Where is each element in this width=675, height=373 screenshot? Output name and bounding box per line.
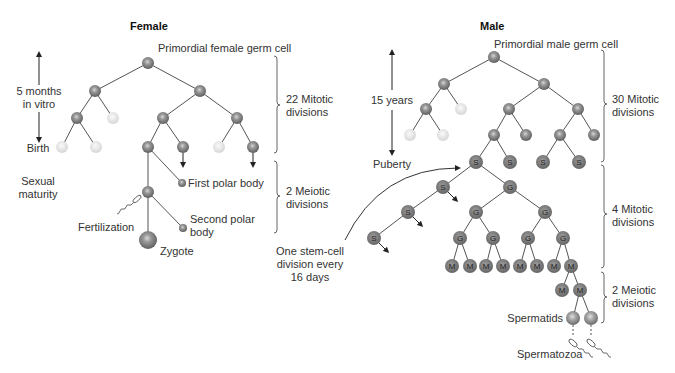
meiotic-label-2: divisions (612, 297, 655, 309)
stem-cell-note-2: division every (277, 258, 344, 270)
spermatids-label: Spermatids (507, 312, 563, 324)
sexual-maturity-label-2: maturity (18, 188, 58, 200)
svg-text:M: M (467, 262, 474, 271)
svg-text:S: S (576, 158, 581, 167)
svg-text:S: S (540, 158, 545, 167)
svg-text:S: S (507, 158, 512, 167)
svg-text:G: G (560, 234, 566, 243)
primordial-germ-cell (142, 57, 154, 69)
sexual-maturity-label: Sexual (21, 175, 55, 187)
spermatid (566, 311, 580, 325)
spermatogonium (438, 78, 450, 90)
male-lettered-nodes: S S S S S S S G G G G G G G M M M M M M … (367, 155, 587, 297)
male-timeline: 15 years Puberty (371, 52, 414, 170)
male-nodes (404, 51, 600, 325)
svg-text:S: S (440, 183, 445, 192)
male-section: Male Primordial male germ cell 15 years … (276, 20, 660, 360)
svg-text:G: G (490, 234, 496, 243)
meiotic-node: M (496, 259, 510, 273)
arrow-icon (379, 243, 387, 251)
brace-meiotic (601, 272, 607, 323)
brace-meiotic (274, 161, 280, 233)
gonial-node: G (521, 231, 535, 245)
spermatozoa-label: Spermatozoa (517, 348, 583, 360)
degenerated-cell (213, 141, 225, 153)
puberty-label: Puberty (373, 158, 411, 170)
svg-text:G: G (457, 234, 463, 243)
second-polar-body-label: Second polar (190, 213, 255, 225)
svg-text:M: M (568, 262, 575, 271)
spermatogonium (588, 129, 600, 141)
female-timeline: 5 months in vitro Birth Sexual maturity (16, 54, 62, 200)
meiotic-node: M (513, 259, 527, 273)
stem-cell-note: One stem-cell (276, 245, 344, 257)
meiotic-divisions-label: 2 Meiotic (286, 185, 331, 197)
mitotic-30-label: 30 Mitotic (612, 93, 660, 105)
oogonium (89, 85, 101, 97)
degenerated-cell (404, 129, 416, 141)
meiotic-node: M (463, 259, 477, 273)
oogonium (71, 112, 83, 124)
primary-oocyte (247, 141, 259, 153)
degenerated-cell (56, 141, 68, 153)
degenerated-cell (90, 141, 102, 153)
brace-4-mitotic (601, 165, 607, 268)
zygote (139, 231, 157, 249)
degenerated-cell (107, 112, 119, 124)
svg-text:M: M (534, 262, 541, 271)
second-polar-body (179, 224, 187, 232)
oogonium (194, 85, 206, 97)
brace-mitotic (274, 56, 280, 153)
spermatid (584, 311, 598, 325)
stem-cell-node: S (572, 155, 586, 169)
svg-text:G: G (525, 234, 531, 243)
second-polar-body-label-2: body (190, 226, 214, 238)
first-polar-body (178, 179, 186, 187)
svg-text:S: S (473, 158, 478, 167)
mitotic-divisions-label-2: divisions (286, 106, 329, 118)
timeline-label: 5 months (16, 85, 62, 97)
primary-oocyte (177, 141, 189, 153)
svg-text:M: M (449, 262, 456, 271)
brace-30-mitotic (601, 50, 607, 162)
oogonium (157, 112, 169, 124)
stem-cell-node: S (469, 155, 483, 169)
svg-text:G: G (542, 208, 548, 217)
timeline-label: 15 years (371, 94, 414, 106)
meiotic-node: M (445, 259, 459, 273)
spermatogonium (538, 78, 550, 90)
mitotic-4-label-2: divisions (612, 216, 655, 228)
primary-oocyte (142, 141, 154, 153)
female-title: Female (130, 20, 168, 32)
stem-cell-node: S (436, 180, 450, 194)
germ-cell-diagram: Female Primordial female germ cell 5 mon… (0, 0, 675, 373)
oogonium (231, 112, 243, 124)
gonial-node: G (486, 231, 500, 245)
mitotic-30-label-2: divisions (612, 106, 655, 118)
zygote-label: Zygote (160, 245, 194, 257)
birth-label: Birth (27, 142, 50, 154)
gonial-node: G (453, 231, 467, 245)
spermatogonium (520, 129, 532, 141)
male-title: Male (480, 20, 504, 32)
meiotic-node: M (530, 259, 544, 273)
sperm-icon (117, 194, 142, 214)
mitotic-divisions-label: 22 Mitotic (286, 93, 334, 105)
female-section: Female Primordial female germ cell 5 mon… (16, 20, 333, 257)
mitotic-4-label: 4 Mitotic (612, 203, 653, 215)
meiotic-node: M (573, 283, 587, 297)
gonial-node: G (556, 231, 570, 245)
meiotic-node: M (479, 259, 493, 273)
svg-text:S: S (371, 234, 376, 243)
stem-cell-node: S (536, 155, 550, 169)
stem-cell-node: S (503, 155, 517, 169)
gonial-node: G (503, 180, 517, 194)
primordial-germ-cell (488, 51, 500, 63)
gonial-node: G (538, 205, 552, 219)
degenerated-cell (455, 103, 467, 115)
spermatogonium (420, 103, 432, 115)
degenerated-cell (437, 129, 449, 141)
gonial-node: G (469, 205, 483, 219)
primordial-female-label: Primordial female germ cell (158, 42, 291, 54)
arrow-icon (413, 217, 421, 225)
